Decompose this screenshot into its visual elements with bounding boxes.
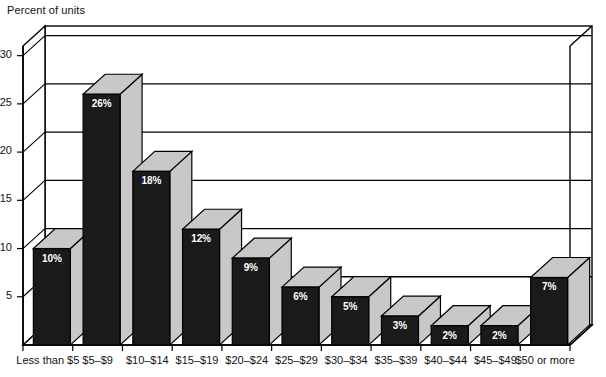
y-axis-tick-label: 20 <box>0 144 12 156</box>
x-axis-category-label: $20–$24 <box>225 354 268 366</box>
x-axis-category-label: $35–$39 <box>375 354 418 366</box>
y-axis-tick-label: 15 <box>0 192 12 204</box>
bar-value-label: 10% <box>42 253 62 264</box>
x-axis-category-label: $40–$44 <box>424 354 467 366</box>
x-axis-category-label: $25–$29 <box>275 354 318 366</box>
y-axis-tick-label: 30 <box>0 48 12 60</box>
y-axis-tick-label: 10 <box>0 241 12 253</box>
x-axis-category-label: Less than $5 <box>16 354 79 366</box>
bar-value-label: 2% <box>443 330 457 341</box>
x-axis-category-label: $15–$19 <box>176 354 219 366</box>
x-axis-category-label: $5–$9 <box>82 354 113 366</box>
bar-value-label: 2% <box>492 330 506 341</box>
y-axis-tick-label: 25 <box>0 96 12 108</box>
bar-value-label: 9% <box>244 262 258 273</box>
x-axis-category-label: $50 or more <box>515 354 574 366</box>
bar-chart: Percent of units 51015202530 Less than $… <box>0 0 606 377</box>
x-axis-category-label: $30–$34 <box>325 354 368 366</box>
bar-value-label: 3% <box>393 320 407 331</box>
bar-value-label: 26% <box>92 98 112 109</box>
y-axis-tick-label: 5 <box>0 289 12 301</box>
bar-value-label: 18% <box>141 175 161 186</box>
x-axis-category-label: $45–$49 <box>474 354 517 366</box>
bar-value-label: 12% <box>191 233 211 244</box>
bar-value-label: 5% <box>343 301 357 312</box>
x-axis-category-label: $10–$14 <box>126 354 169 366</box>
chart-plot-area <box>0 0 606 377</box>
bar-value-label: 6% <box>293 291 307 302</box>
bar-value-label: 7% <box>542 281 556 292</box>
